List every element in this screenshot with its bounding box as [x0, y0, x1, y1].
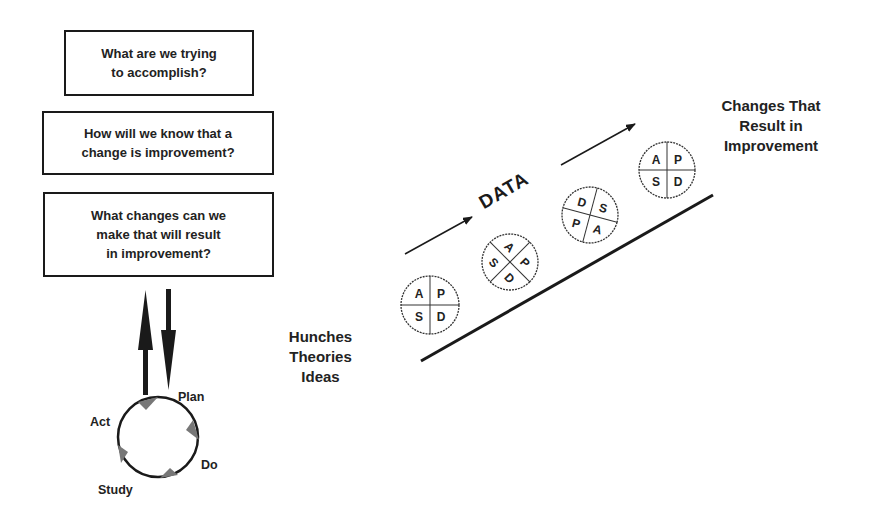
- svg-text:S: S: [415, 310, 423, 324]
- cycle-stage-act: Act: [90, 415, 111, 429]
- cycle-stage-plan: Plan: [178, 390, 204, 404]
- pdsa-circle-2: A P S D: [470, 222, 549, 301]
- cycle-stage-do: Do: [201, 458, 218, 472]
- up-arrow-icon: [138, 290, 153, 395]
- down-arrow-icon: [161, 289, 176, 390]
- data-arrow-1-icon: [405, 217, 472, 254]
- data-label: DATA: [475, 168, 532, 213]
- svg-text:S: S: [652, 175, 660, 189]
- pdsa-cycle-icon: [118, 397, 199, 478]
- pdsa-circle-3: D S P A: [556, 181, 625, 250]
- cycle-stage-study: Study: [98, 483, 133, 497]
- svg-text:A: A: [652, 153, 661, 167]
- svg-text:A: A: [415, 287, 424, 301]
- pdsa-circle-4: A P S D: [639, 142, 695, 198]
- svg-text:P: P: [437, 287, 445, 301]
- svg-text:D: D: [674, 175, 683, 189]
- svg-text:D: D: [437, 310, 446, 324]
- pdsa-circle-1: A P S D: [401, 276, 459, 334]
- svg-text:P: P: [674, 153, 682, 167]
- data-arrow-2-icon: [561, 124, 635, 165]
